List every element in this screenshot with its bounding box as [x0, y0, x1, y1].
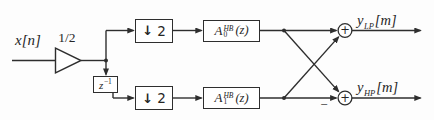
down-arrow-icon: ↓ [142, 90, 153, 105]
filter-subscript: 0 [223, 31, 227, 37]
output-base: y [357, 12, 363, 28]
downsample-factor: 2 [157, 23, 166, 39]
filter-bank-diagram: + + − x[n] 1/2 z−1 ↓2 ↓2 AHB0(z) AHB1(z)… [0, 0, 434, 120]
output-bottom-label: yHP[m] [357, 80, 398, 95]
filter-argument: (z) [235, 23, 248, 38]
input-signal-label: x[n] [15, 33, 41, 48]
output-base: y [357, 79, 363, 95]
filter-base: A [214, 23, 222, 39]
downsampler-bottom-block: ↓2 [135, 86, 173, 110]
gain-label: 1/2 [52, 31, 82, 45]
output-argument: [m] [376, 79, 398, 95]
delay-exponent: −1 [104, 77, 112, 86]
filter-argument: (z) [235, 91, 248, 106]
downsample-factor: 2 [157, 90, 166, 106]
filter-subscript: 1 [223, 99, 227, 105]
downsampler-top-block: ↓2 [135, 19, 173, 43]
branch-node-bottom [282, 96, 286, 100]
minus-sign: − [320, 97, 327, 112]
delay-base: z [99, 79, 103, 91]
output-subscript: HP [364, 89, 375, 98]
filter-base: A [214, 90, 222, 106]
output-top-label: yLP[m] [357, 13, 397, 28]
down-arrow-icon: ↓ [142, 23, 153, 38]
cross-wire-bottom-to-top-adder [284, 37, 339, 98]
adder-top-plus-icon: + [340, 23, 350, 37]
filter-top-block: AHB0(z) [203, 20, 260, 42]
delay-block: z−1 [93, 76, 118, 93]
cross-wire-top-to-bottom-adder [284, 31, 339, 92]
output-subscript: LP [364, 22, 374, 31]
filter-bottom-block: AHB1(z) [203, 87, 260, 109]
output-argument: [m] [375, 12, 397, 28]
branch-node-top [282, 29, 286, 33]
adder-bottom-plus-icon: + [340, 91, 350, 105]
gain-amplifier-triangle [56, 48, 82, 73]
